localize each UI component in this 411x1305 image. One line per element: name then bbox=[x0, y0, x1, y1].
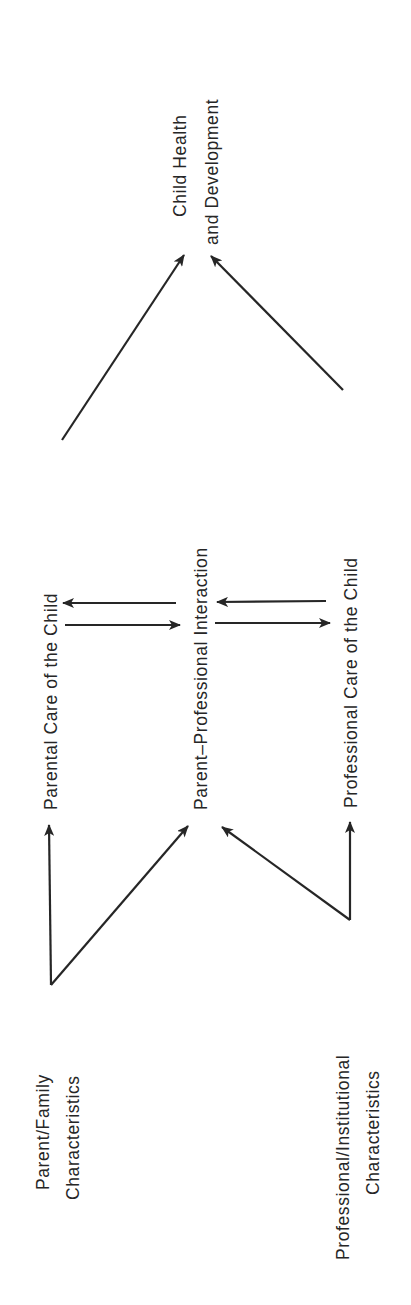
arrow-parent-family-to-parental-care bbox=[49, 825, 51, 985]
node-label: Professional Care of the Child bbox=[341, 558, 361, 808]
node-professional-institutional-characteristics: Professional/Institutional Characteristi… bbox=[333, 1055, 383, 1260]
node-parent-family-characteristics: Parent/Family Characteristics bbox=[33, 1074, 83, 1200]
node-label-line2: and Development bbox=[202, 99, 222, 245]
node-label-line2: Characteristics bbox=[363, 1070, 383, 1195]
node-label: Parent–Professional Interaction bbox=[191, 547, 211, 810]
node-professional-care-of-the-child: Professional Care of the Child bbox=[341, 558, 361, 808]
node-label: Parental Care of the Child bbox=[41, 593, 61, 810]
node-parent-professional-interaction: Parent–Professional Interaction bbox=[191, 547, 211, 810]
diagram-canvas: Parent/Family Characteristics Profession… bbox=[0, 0, 411, 1305]
arrow-professional-care-to-child-health bbox=[211, 256, 343, 390]
node-label-line1: Child Health bbox=[170, 114, 190, 217]
arrow-parent-family-to-interaction bbox=[51, 826, 188, 985]
node-label-line1: Parent/Family bbox=[33, 1074, 53, 1190]
arrow-parental-care-to-child-health bbox=[62, 255, 184, 440]
node-child-health-and-development: Child Health and Development bbox=[170, 99, 222, 245]
node-parental-care-of-the-child: Parental Care of the Child bbox=[41, 593, 61, 810]
arrow-prof-inst-to-interaction bbox=[222, 827, 350, 920]
node-label-line1: Professional/Institutional bbox=[333, 1055, 353, 1260]
node-label-line2: Characteristics bbox=[63, 1075, 83, 1200]
arrow-professional-care-to-interaction bbox=[217, 601, 326, 602]
